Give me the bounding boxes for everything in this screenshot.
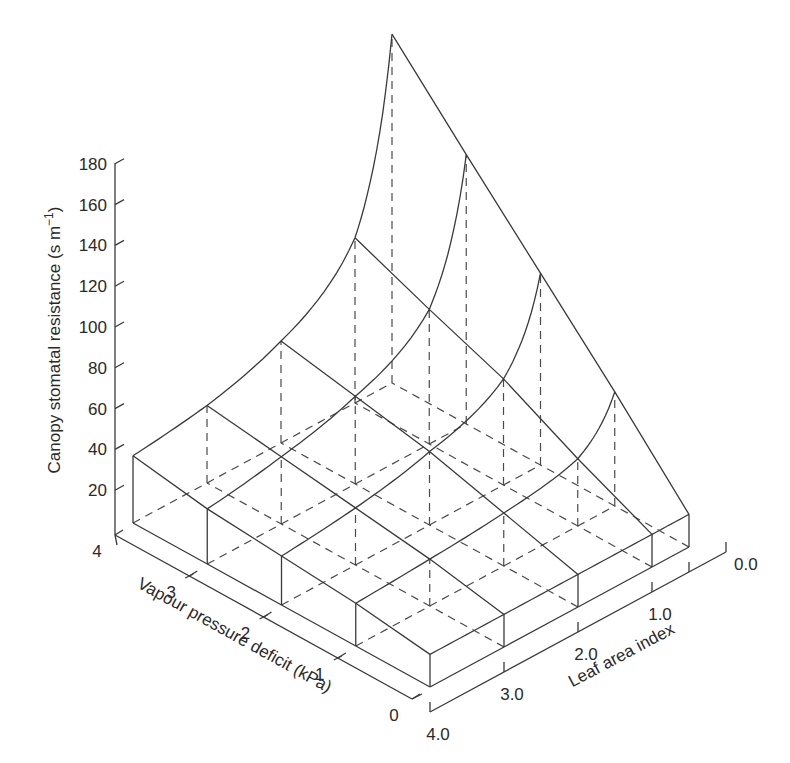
z-tick-label: 80: [88, 359, 107, 378]
surface-curve-vpd-4: [133, 34, 392, 456]
floor-grid-vpd: [282, 465, 541, 605]
hidden-grid-lines: [133, 34, 689, 647]
z-tick-label: 120: [79, 277, 107, 296]
z-tick: [115, 200, 124, 205]
z-tick-label: 20: [88, 481, 107, 500]
lai-tick-label: 0.0: [734, 555, 758, 574]
vpd-tick-label: 0: [389, 706, 398, 725]
z-tick-label: 140: [79, 236, 107, 255]
z-tick-label: 40: [88, 440, 107, 459]
z-tick-label: 180: [79, 155, 107, 174]
z-tick: [115, 404, 124, 409]
z-tick-label: 160: [79, 196, 107, 215]
lai-tick-label: 4.0: [426, 725, 450, 744]
vpd-tick: [412, 694, 420, 699]
z-tick: [115, 444, 124, 449]
x-axis-title: Vapour pressure deficit (kPa): [134, 574, 335, 697]
z-tick: [115, 485, 124, 490]
z-tick: [115, 159, 124, 164]
surface-line-lai-4: [133, 456, 430, 655]
floor-grid-vpd: [207, 424, 466, 564]
surface-line-lai-0.5: [392, 34, 689, 514]
floor-grid-vpd: [133, 383, 392, 523]
surface-curve-vpd-2: [282, 273, 541, 556]
surface-line-lai-2: [281, 341, 578, 574]
surface-wireframe: [133, 34, 689, 687]
lai-tick-label: 3.0: [500, 685, 524, 704]
surface-chart: 20406080100120140160180012340.01.02.03.0…: [0, 0, 790, 763]
z-tick: [115, 363, 124, 368]
z-tick-label: 100: [79, 318, 107, 337]
z-tick: [115, 240, 124, 245]
z-tick: [115, 281, 124, 286]
vpd-tick-label: 4: [92, 542, 101, 561]
z-axis-title: Canopy stomatal resistance (s m−1): [42, 207, 64, 474]
z-tick-label: 60: [88, 400, 107, 419]
vpd-tick: [115, 530, 123, 535]
surface-curve-vpd-3: [207, 155, 466, 509]
z-tick: [115, 322, 124, 327]
